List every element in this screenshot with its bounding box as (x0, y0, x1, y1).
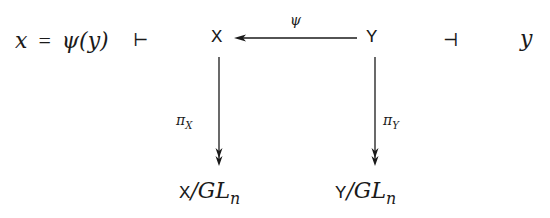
arrow-pi-x (216, 57, 223, 166)
arrow-psi (234, 35, 357, 42)
arrow-pi-y (372, 57, 379, 166)
arrow-layer (0, 0, 550, 218)
